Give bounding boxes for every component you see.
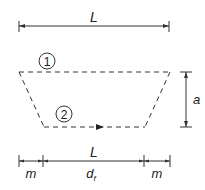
top-length-dimension: L: [19, 9, 169, 32]
left-slope-line: [19, 72, 44, 127]
path-two-label: 2: [61, 108, 68, 122]
middle-segment-label: df: [86, 166, 96, 183]
path-one-marker: 1: [39, 53, 55, 69]
trapezoid-diagram: L 1 2 a L m d: [0, 0, 205, 190]
trapezoid-outline: [19, 72, 170, 127]
path-one-label: 1: [44, 55, 51, 69]
height-label: a: [193, 92, 200, 107]
right-slope-line: [145, 72, 170, 127]
right-margin-label: m: [152, 166, 163, 181]
left-margin-label: m: [26, 166, 37, 181]
direction-arrow-icon: [96, 124, 104, 130]
bottom-length-label: L: [90, 144, 98, 160]
top-length-label: L: [90, 9, 98, 25]
path-two-marker: 2: [56, 106, 72, 122]
bottom-length-dimension: L m df m: [19, 144, 170, 183]
height-dimension: a: [180, 72, 200, 127]
